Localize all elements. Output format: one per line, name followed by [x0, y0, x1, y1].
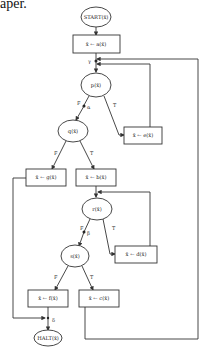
beta-label: β — [87, 230, 90, 237]
test-s-node: s(x̄) — [61, 245, 89, 267]
s-false-label: F — [54, 274, 58, 280]
alpha-label: α — [87, 104, 91, 110]
gamma-label: γ — [88, 58, 91, 65]
q-true-label: T — [90, 150, 94, 156]
assign-c-label: x̄ ← c(x̄) — [89, 295, 110, 301]
test-s-label: s(x̄) — [70, 253, 80, 259]
edge-beta-to-s — [79, 232, 84, 246]
r-false-label: F — [80, 225, 84, 231]
test-r-label: r(x̄) — [92, 206, 101, 212]
test-q-label: q(x̄) — [68, 128, 78, 135]
assign-c-node: x̄ ← c(x̄) — [79, 290, 119, 307]
assign-f-node: x̄ ← f(x̄) — [28, 290, 68, 307]
start-node: START(x̄) — [81, 7, 111, 27]
start-label: START(x̄) — [84, 14, 109, 20]
assign-b-node: x̄ ← b(x̄) — [76, 169, 116, 186]
p-true-label: T — [113, 102, 117, 108]
edge-alpha-to-q — [76, 106, 84, 120]
assign-f-label: x̄ ← f(x̄) — [38, 295, 58, 301]
halt-node: HALT(x̄) — [34, 330, 62, 346]
halt-label: HALT(x̄) — [37, 335, 59, 341]
assign-d-label: x̄ ← d(x̄) — [125, 251, 146, 257]
assign-a-label: x̄ ← a(x̄) — [85, 41, 106, 47]
assign-b-label: x̄ ← b(x̄) — [85, 174, 106, 180]
s-true-label: T — [90, 274, 94, 280]
r-true-label: T — [112, 225, 116, 231]
delta-label: δ — [52, 317, 55, 323]
assign-g-label: x̄ ← g(x̄) — [35, 174, 56, 181]
assign-d-node: x̄ ← d(x̄) — [115, 246, 157, 263]
test-r-node: r(x̄) — [82, 198, 112, 220]
delta-junction — [47, 317, 49, 319]
assign-e-node: x̄ ← e(x̄) — [124, 127, 162, 144]
p-false-label: F — [77, 100, 81, 106]
assign-g-node: x̄ ← g(x̄) — [26, 169, 66, 186]
test-p-node: p(x̄) — [81, 73, 111, 97]
test-q-node: q(x̄) — [58, 120, 88, 142]
test-p-label: p(x̄) — [91, 82, 101, 89]
assign-a-node: x̄ ← a(x̄) — [73, 35, 120, 53]
q-false-label: F — [54, 150, 58, 156]
edge-e-loop-back — [97, 64, 150, 127]
flowchart: START(x̄) x̄ ← a(x̄) γ p(x̄) F α T x̄ ← … — [0, 0, 203, 347]
assign-e-label: x̄ ← e(x̄) — [132, 132, 153, 138]
